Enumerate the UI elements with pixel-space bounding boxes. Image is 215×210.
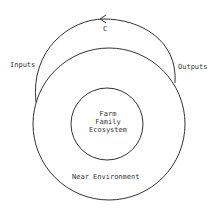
core-label-line3: Ecosystem (86, 126, 130, 134)
cycle-label: C (103, 25, 107, 33)
near-environment-label: Near Environment (72, 173, 139, 181)
core-label-line1: Farm (86, 110, 130, 118)
outputs-label: Outputs (178, 63, 208, 71)
core-label-line2: Family (86, 118, 130, 126)
core-label: Farm Family Ecosystem (86, 110, 130, 134)
inputs-label: Inputs (10, 61, 35, 69)
